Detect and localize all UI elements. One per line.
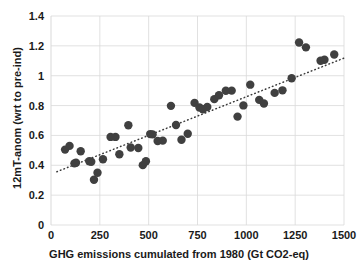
data-point: [203, 103, 211, 111]
data-point: [99, 155, 107, 163]
data-point: [76, 147, 84, 155]
x-axis-tick-label: 1250: [283, 229, 307, 241]
data-point: [302, 43, 310, 51]
x-axis-tick-label: 750: [188, 229, 206, 241]
data-point: [172, 121, 180, 129]
x-axis-tick-label: 0: [48, 229, 54, 241]
plot-canvas: [51, 16, 344, 225]
x-axis-tick-label: 500: [139, 229, 157, 241]
scatter-chart: 00.20.40.60.811.21.4 0250500750100012501…: [0, 0, 358, 273]
data-point: [111, 133, 119, 141]
data-point: [278, 86, 286, 94]
data-point: [87, 158, 95, 166]
data-point: [270, 89, 278, 97]
data-point: [246, 80, 254, 88]
data-point: [126, 143, 134, 151]
data-point: [65, 142, 73, 150]
data-point: [233, 112, 241, 120]
x-axis-tick-label: 1000: [234, 229, 258, 241]
data-point: [177, 136, 185, 144]
data-point: [320, 56, 328, 64]
data-point: [124, 121, 132, 129]
data-points: [61, 38, 339, 184]
plot-area: [51, 16, 344, 225]
data-point: [227, 86, 235, 94]
data-point: [260, 99, 268, 107]
data-point: [72, 159, 80, 167]
vertical-gridlines: [51, 16, 344, 225]
data-point: [295, 38, 303, 46]
data-point: [167, 102, 175, 110]
x-axis-title: GHG emissions cumulated from 1980 (Gt CO…: [0, 248, 358, 260]
x-axis-tick-label: 250: [91, 229, 109, 241]
data-point: [115, 150, 123, 158]
data-point: [142, 157, 150, 165]
data-point: [184, 130, 192, 138]
x-axis-tick-label: 1500: [332, 229, 356, 241]
data-point: [287, 74, 295, 82]
data-point: [93, 169, 101, 177]
y-axis-title: 12mT-anom (wrt to pre-ind): [11, 13, 23, 223]
data-point: [134, 144, 142, 152]
data-point: [148, 130, 156, 138]
data-point: [159, 136, 167, 144]
data-point: [239, 101, 247, 109]
data-point: [330, 50, 338, 58]
